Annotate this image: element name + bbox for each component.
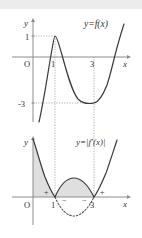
upper-guides bbox=[33, 36, 94, 125]
upper-x-axis-label: x bbox=[122, 59, 127, 69]
lower-curve-label: y=|f′(x)| bbox=[75, 137, 105, 147]
upper-y-axis-label: y bbox=[23, 18, 28, 28]
upper-origin-label: O bbox=[24, 59, 30, 69]
lower-xtick-label-1: 1 bbox=[51, 200, 55, 210]
upper-xtick-label-3: 3 bbox=[90, 59, 94, 69]
lower-curve-dotted-reflection bbox=[55, 197, 94, 216]
sign-mark-minus-right: − bbox=[82, 196, 87, 205]
lower-origin-label: O bbox=[24, 200, 30, 210]
upper-ytick-label-neg3: -3 bbox=[18, 99, 25, 109]
upper-curve-fx bbox=[39, 24, 124, 122]
upper-curve-label: y=f(x) bbox=[83, 19, 108, 30]
figure-root: y x O 1 -3 1 3 y=f(x) bbox=[0, 0, 142, 238]
sign-mark-plus-left: + bbox=[44, 188, 49, 197]
lower-y-axis-label: y bbox=[23, 137, 28, 147]
lower-curve-right-branch bbox=[94, 140, 117, 197]
lower-x-axis-label: x bbox=[122, 199, 127, 209]
upper-graph: y x O 1 -3 1 3 y=f(x) bbox=[0, 0, 142, 125]
lower-graph: + − − + y x O 1 3 y=|f′(x)| bbox=[0, 125, 142, 238]
sign-mark-plus-right: + bbox=[100, 188, 105, 197]
upper-ytick-label-1: 1 bbox=[25, 32, 29, 42]
lower-xtick-label-3: 3 bbox=[90, 200, 94, 210]
upper-xtick-label-1: 1 bbox=[51, 59, 55, 69]
sign-mark-minus-left: − bbox=[62, 196, 67, 205]
